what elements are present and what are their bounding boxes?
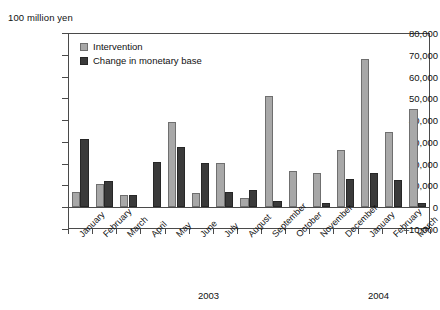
legend: Intervention Change in monetary base (80, 40, 202, 68)
bar-monetary-base (273, 201, 281, 208)
bar-monetary-base (177, 147, 185, 208)
bar-intervention (385, 132, 393, 207)
bar-monetary-base (153, 162, 161, 207)
bar-monetary-base (225, 192, 233, 208)
year-label-2003: 2003 (198, 290, 219, 301)
bar-intervention (265, 96, 273, 207)
bar-intervention (361, 59, 369, 207)
monetary-swatch-icon (80, 57, 88, 65)
year-label-2004: 2004 (368, 290, 389, 301)
bar-intervention (72, 192, 80, 207)
bar-intervention (96, 184, 104, 207)
bar-monetary-base (322, 203, 330, 207)
bar-intervention (120, 195, 128, 207)
bar-monetary-base (201, 163, 209, 208)
bar-intervention (313, 173, 321, 207)
bar-intervention (168, 122, 176, 207)
month-bar-group (213, 33, 237, 229)
intervention-swatch-icon (80, 43, 88, 51)
bar-intervention (240, 198, 248, 207)
month-bar-group (382, 33, 406, 229)
bar-intervention (337, 150, 345, 207)
month-bar-group (333, 33, 357, 229)
month-bar-group (237, 33, 261, 229)
legend-label-monetary: Change in monetary base (93, 55, 202, 66)
bar-monetary-base (104, 181, 112, 207)
bar-monetary-base (394, 180, 402, 207)
bar-monetary-base (418, 203, 426, 207)
bar-intervention (289, 171, 297, 207)
bar-intervention (216, 163, 224, 208)
bar-monetary-base (129, 195, 137, 207)
x-axis-labels: JanuaryFebruaryMarchAprilMayJuneJulyAugu… (68, 232, 430, 292)
bar-intervention (192, 193, 200, 207)
month-bar-group (261, 33, 285, 229)
month-bar-group (285, 33, 309, 229)
legend-item-monetary: Change in monetary base (80, 54, 202, 67)
bar-monetary-base (249, 190, 257, 207)
month-bar-group (406, 33, 430, 229)
legend-item-intervention: Intervention (80, 40, 202, 53)
bar-intervention (409, 109, 417, 207)
month-bar-group (309, 33, 333, 229)
y-axis (0, 0, 68, 310)
month-bar-group (358, 33, 382, 229)
legend-label-intervention: Intervention (93, 41, 143, 52)
bar-monetary-base (80, 139, 88, 207)
